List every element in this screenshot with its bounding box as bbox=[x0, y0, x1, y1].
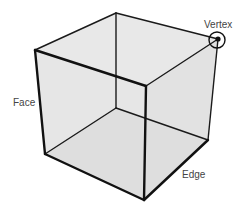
vertex-dot bbox=[215, 36, 220, 41]
vertex-label: Vertex bbox=[204, 20, 232, 30]
face-label: Face bbox=[13, 98, 35, 108]
edge-label: Edge bbox=[182, 170, 205, 180]
